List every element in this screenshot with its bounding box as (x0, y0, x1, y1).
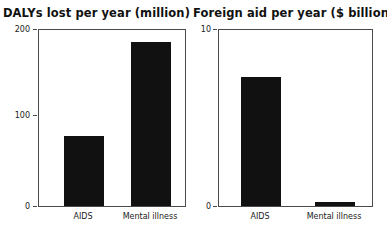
ytick-mark-left-200 (33, 29, 37, 30)
panel-dalys: DALYs lost per year (million) 200 100 0 … (0, 0, 193, 241)
ytick-mark-left-0 (33, 206, 37, 207)
ytick-label-left-200: 200 (0, 26, 30, 34)
ytick-label-left-100: 100 (0, 112, 30, 120)
panel-foreign-aid: Foreign aid per year ($ billion) 10 0 AI… (193, 0, 387, 241)
xtick-label-aid-mental-illness: Mental illness (294, 212, 374, 221)
xtick-label-aid-aids: AIDS (230, 212, 290, 221)
bar-aid-aids (241, 77, 281, 206)
bar-dalys-aids (64, 136, 104, 206)
ytick-mark-right-0 (213, 206, 217, 207)
ytick-label-right-0: 0 (193, 203, 211, 211)
ytick-label-left-0: 0 (0, 203, 30, 211)
xtick-label-dalys-mental-illness: Mental illness (110, 212, 190, 221)
plot-area-foreign-aid (218, 29, 373, 207)
bar-dalys-mental-illness (131, 42, 171, 206)
bar-aid-mental-illness (315, 202, 355, 206)
ytick-label-right-10: 10 (193, 26, 211, 34)
panel-title-foreign-aid: Foreign aid per year ($ billion) (193, 6, 387, 20)
two-panel-bar-chart-figure: DALYs lost per year (million) 200 100 0 … (0, 0, 387, 241)
ytick-mark-left-100 (33, 115, 37, 116)
xtick-label-dalys-aids: AIDS (53, 212, 113, 221)
ytick-mark-right-10 (213, 29, 217, 30)
panel-title-dalys: DALYs lost per year (million) (0, 6, 193, 20)
plot-area-dalys (38, 29, 186, 207)
